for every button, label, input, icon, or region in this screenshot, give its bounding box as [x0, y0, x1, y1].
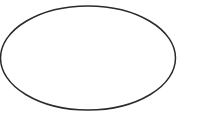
drawing-canvas	[0, 0, 199, 123]
ellipse-drawing	[0, 0, 199, 123]
ellipse-outline-shape	[1, 6, 176, 110]
